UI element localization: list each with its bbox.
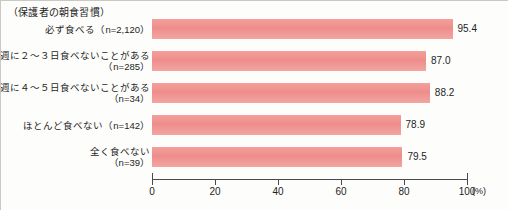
bar-value-label: 95.4 [458, 23, 477, 34]
x-tick [467, 180, 468, 185]
x-tick [152, 180, 153, 185]
x-axis-end-cap [467, 173, 468, 179]
category-label: 全く食べない （n=39） [0, 146, 150, 168]
chart-title: （保護者の朝食習慣） [8, 4, 110, 19]
x-tick [278, 180, 279, 185]
x-tick [215, 180, 216, 185]
category-label: 必ず食べる（n=2,120） [0, 24, 150, 35]
bar [152, 115, 401, 135]
x-axis-unit-label: (%) [472, 186, 486, 196]
bar-row: ほとんど食べない（n=142）78.9 [0, 115, 508, 135]
x-tick-label: 40 [272, 186, 283, 197]
x-tick-label: 0 [149, 186, 155, 197]
bar-value-label: 87.0 [431, 55, 450, 66]
category-label: 週に２〜３日食べないことがある （n=285） [0, 50, 150, 72]
bar-row: 全く食べない （n=39）79.5 [0, 147, 508, 167]
bar-value-label: 78.9 [406, 119, 425, 130]
x-tick-label: 60 [335, 186, 346, 197]
category-label: 週に４〜５日食べないことがある （n=34） [0, 82, 150, 104]
bar [152, 83, 430, 103]
bar-value-label: 88.2 [435, 87, 454, 98]
bar-row: 必ず食べる（n=2,120）95.4 [0, 19, 508, 39]
bar-row: 週に２〜３日食べないことがある （n=285）87.0 [0, 51, 508, 71]
chart-container: （保護者の朝食習慣） 必ず食べる（n=2,120）95.4週に２〜３日食べないこ… [0, 0, 508, 210]
bar-row: 週に４〜５日食べないことがある （n=34）88.2 [0, 83, 508, 103]
bar [152, 19, 453, 39]
bar [152, 147, 402, 167]
x-tick [341, 180, 342, 185]
bar-value-label: 79.5 [407, 151, 426, 162]
bar [152, 51, 426, 71]
x-axis-line [152, 179, 468, 180]
x-tick-label: 80 [398, 186, 409, 197]
x-axis-start-cap [152, 173, 153, 179]
x-tick-label: 20 [209, 186, 220, 197]
x-tick [404, 180, 405, 185]
category-label: ほとんど食べない（n=142） [0, 120, 150, 131]
